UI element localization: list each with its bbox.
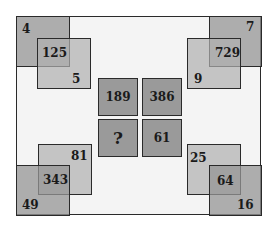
- center-cell-bottom-right: 61: [142, 119, 182, 157]
- bottom-left-outer-number: 49: [22, 199, 39, 211]
- center-cell-top-right: 386: [142, 78, 182, 116]
- top-right-center-number: 729: [215, 47, 240, 59]
- top-left-center-number: 125: [42, 47, 67, 59]
- top-left-inner-number: 5: [72, 73, 80, 85]
- top-left-outer-number: 4: [22, 23, 30, 35]
- bottom-left-inner-number: 81: [71, 150, 88, 162]
- bottom-right-inner-number: 25: [190, 152, 207, 164]
- center-cell-top-left: 189: [98, 78, 138, 116]
- center-cell-unknown: ?: [98, 119, 138, 157]
- bottom-right-center-number: 64: [217, 175, 234, 187]
- top-right-outer-number: 7: [246, 21, 254, 33]
- bottom-left-center-number: 343: [43, 174, 68, 186]
- top-right-inner-number: 9: [194, 73, 202, 85]
- bottom-right-outer-number: 16: [237, 199, 254, 211]
- bottom-right-outer-square: [209, 165, 262, 216]
